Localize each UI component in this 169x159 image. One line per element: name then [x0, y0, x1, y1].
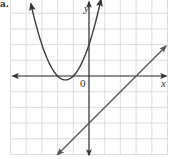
- y-axis-label: y: [84, 2, 89, 14]
- linear-function-line: [58, 46, 166, 154]
- origin-label: 0: [80, 77, 86, 89]
- x-axis-label: x: [161, 77, 166, 89]
- parabola-curve: [31, 0, 101, 80]
